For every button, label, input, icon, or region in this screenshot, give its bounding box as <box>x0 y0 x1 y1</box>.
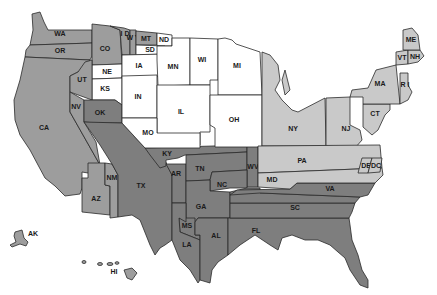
state-MI[interactable]: MI <box>218 38 262 95</box>
state-NC[interactable]: NC <box>210 170 247 191</box>
state-label-KS: KS <box>100 85 110 92</box>
state-label-LA: LA <box>182 241 191 248</box>
state-label-NJ: NJ <box>342 125 351 132</box>
state-label-NC: NC <box>217 181 227 188</box>
state-label-VT: VT <box>398 54 408 61</box>
state-label-ME: ME <box>406 36 417 43</box>
state-label-FL: FL <box>252 227 261 234</box>
state-label-AK: AK <box>28 230 38 237</box>
state-CT[interactable]: CT <box>363 104 390 135</box>
state-MT[interactable]: MT <box>136 31 157 45</box>
state-label-PA: PA <box>297 157 306 164</box>
state-label-WV: WV <box>247 163 259 170</box>
state-NE[interactable]: NE <box>92 64 122 79</box>
state-label-NV: NV <box>71 103 81 110</box>
state-label-MT: MT <box>141 35 152 42</box>
state-OH[interactable]: OH <box>210 95 262 147</box>
state-WI[interactable]: WI <box>190 38 218 85</box>
state-label-TN: TN <box>195 165 204 172</box>
state-label-TX: TX <box>137 182 146 189</box>
state-AL[interactable]: AL <box>195 218 228 283</box>
state-label-DC: DC <box>371 162 381 169</box>
state-label-MI: MI <box>233 62 241 69</box>
state-label-GA: GA <box>196 203 207 210</box>
state-AK[interactable]: AK <box>10 230 38 247</box>
state-label-CA: CA <box>39 124 49 131</box>
state-label-OK: OK <box>95 109 106 116</box>
state-MA[interactable]: MA <box>350 65 400 104</box>
state-FL[interactable]: FL <box>228 218 368 288</box>
state-NY[interactable]: NY <box>262 52 326 146</box>
state-NH[interactable]: NH <box>408 50 424 64</box>
state-label-IA: IA <box>136 62 143 69</box>
state-label-NE: NE <box>102 68 112 75</box>
state-label-VA: VA <box>325 185 334 192</box>
state-label-MN: MN <box>168 63 179 70</box>
state-VT[interactable]: VT <box>396 50 408 65</box>
state-HI[interactable]: HI <box>82 261 137 281</box>
state-SC[interactable]: SC <box>230 203 355 218</box>
state-IN[interactable]: IN <box>122 75 157 118</box>
state-label-MD: MD <box>267 176 278 183</box>
state-label-AR: AR <box>171 170 181 177</box>
state-label-CT: CT <box>370 110 380 117</box>
state-label-SD: SD <box>145 46 155 53</box>
state-label-UT: UT <box>77 76 87 83</box>
state-label-AZ: AZ <box>91 195 101 202</box>
state-label-NH: NH <box>410 53 420 60</box>
state-label-NM: NM <box>107 174 118 181</box>
state-label-AL: AL <box>211 232 221 239</box>
state-label-WI: WI <box>198 56 207 63</box>
state-RI[interactable]: R I <box>400 73 412 104</box>
state-label-ND: ND <box>159 36 169 43</box>
state-ME[interactable]: ME <box>403 28 420 50</box>
state-label-MA: MA <box>375 80 386 87</box>
state-label-IL: IL <box>178 108 185 115</box>
state-label-CO: CO <box>100 45 111 52</box>
state-label-IN: IN <box>135 93 142 100</box>
state-label-NY: NY <box>288 125 298 132</box>
state-NJ[interactable]: NJ <box>326 97 362 148</box>
state-label-HI: HI <box>111 268 118 275</box>
state-ND[interactable]: ND <box>157 33 172 46</box>
us-state-map: WA OR CA CO I D W Y MT ND SD NE KS <box>0 0 437 295</box>
state-label-MO: MO <box>142 129 154 136</box>
state-label-RI: R I <box>401 81 410 88</box>
state-CO[interactable]: CO <box>92 24 122 65</box>
state-label-MS: MS <box>182 222 193 229</box>
state-label-SC: SC <box>290 204 300 211</box>
state-WA[interactable]: WA <box>30 12 92 45</box>
state-label-WA: WA <box>54 30 65 37</box>
state-label-KY: KY <box>162 150 172 157</box>
state-OK[interactable]: OK <box>84 100 122 123</box>
state-label-OH: OH <box>229 116 240 123</box>
state-label-OR: OR <box>55 47 66 54</box>
